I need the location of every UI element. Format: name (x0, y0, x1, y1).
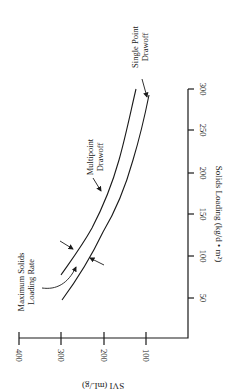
x-tick-label: 50 (198, 294, 208, 303)
y-axis-title: SVI (mL/g) (82, 381, 124, 391)
y-tick-label: 400 (14, 349, 24, 362)
x-tick-label: 150 (198, 208, 208, 221)
y-tick-label: 100 (141, 349, 151, 362)
y-tick-label: 200 (99, 349, 109, 362)
x-tick-label: 300 (198, 83, 208, 96)
y-tick-labels: 400 300 200 100 (14, 349, 151, 362)
multipoint-drawoff-curve (61, 89, 136, 275)
gap-arrow-left-icon (60, 241, 73, 249)
single-point-label-line1: Single Point (130, 25, 140, 67)
x-tick-label: 200 (198, 167, 208, 180)
max-rate-label-line2: Loading Rate (26, 259, 36, 305)
max-rate-label-line1: Maximum Solids (16, 253, 26, 312)
axes (19, 89, 194, 345)
multipoint-label-line1: Multipoint (85, 138, 95, 175)
chart-canvas: 300 250 200 150 100 50 Solids Loading (k… (0, 0, 234, 391)
single-point-arrow-icon (142, 79, 147, 97)
max-rate-curved-arrow-icon (42, 267, 76, 288)
x-axis-title: Solids Loading (kg/d • m²) (214, 166, 224, 262)
single-point-label-line2: Drawoff (140, 33, 150, 62)
multipoint-label-line2: Drawoff (95, 143, 105, 172)
x-tick-label: 250 (198, 124, 208, 137)
y-tick-label: 300 (56, 349, 66, 362)
multipoint-arrow-icon (93, 178, 101, 191)
x-tick-labels: 300 250 200 150 100 50 (198, 83, 208, 303)
gap-arrow-right-icon (90, 258, 104, 265)
x-tick-label: 100 (198, 250, 208, 263)
axis-lines (19, 89, 188, 338)
